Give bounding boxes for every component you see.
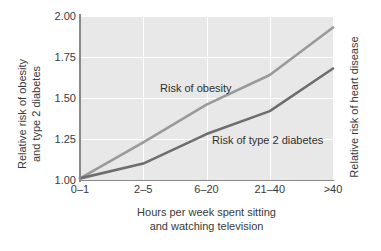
y-axis-title-line2: and type 2 diabetes [29,39,43,189]
series-layer [80,16,333,180]
plot-area [80,16,333,180]
x-axis-tick-label: >40 [324,183,343,195]
y-axis-title: Relative risk of obesity and type 2 diab… [15,39,43,189]
x-axis-tick-label: 21–40 [255,183,286,195]
y-axis-title-line1: Relative risk of obesity [15,39,29,189]
x-axis-ticks: 0–12–56–2021–40>40 [80,183,333,199]
x-axis-title-line2: and watching television [80,219,333,233]
x-axis-tick-label: 0–1 [71,183,89,195]
series-line [80,27,333,178]
x-axis-title: Hours per week spent sitting and watchin… [80,205,333,233]
x-axis-tick-label: 2–5 [134,183,152,195]
y-axis-tick-label: 2.00 [4,11,76,22]
x-axis-title-line1: Hours per week spent sitting [80,205,333,219]
x-axis-line [79,180,334,181]
x-axis-tick-label: 6–20 [194,183,218,195]
y-axis-line [79,14,81,182]
annotation-risk-of-type-2-diabetes: Risk of type 2 diabetes [212,134,323,146]
secondary-y-axis-title: Relative risk of heart disease [347,32,361,182]
annotation-risk-of-obesity: Risk of obesity [160,82,232,94]
gridline-vertical [333,16,334,180]
chart-figure: 1.001.251.501.752.00 0–12–56–2021–40>40 … [0,0,381,251]
